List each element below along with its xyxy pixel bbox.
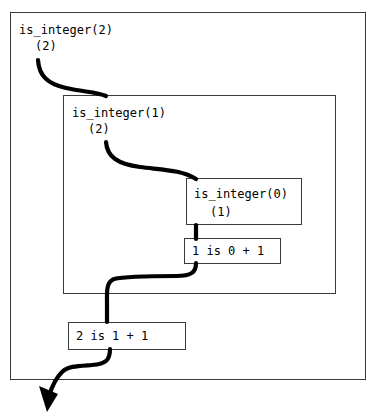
return-arrow-inner-icon [107, 263, 196, 322]
result-inner-label: 1 is 0 + 1 [192, 243, 264, 259]
call-arrow-1-to-0-icon [106, 142, 196, 179]
frame-outer-call-label: is_integer(2) [19, 22, 113, 38]
frame-outer-return-label: (2) [35, 38, 57, 54]
result-outer-label: 2 is 1 + 1 [76, 328, 148, 344]
frame-middle-return-label: (2) [88, 121, 110, 137]
arrow-layer [0, 0, 374, 415]
frame-inner-call-label: is_integer(0) [194, 186, 288, 202]
arrowhead-icon [39, 386, 58, 412]
return-arrow-final-icon [49, 349, 110, 396]
call-arrow-2-to-1-icon [38, 60, 106, 96]
frame-middle-call-label: is_integer(1) [72, 105, 166, 121]
frame-inner-return-label: (1) [210, 204, 232, 220]
